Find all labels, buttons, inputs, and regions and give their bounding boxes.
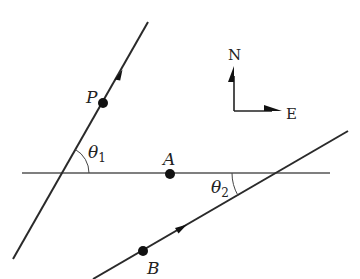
theta1-symbol: θ — [88, 142, 98, 162]
compass-east-label: E — [286, 105, 297, 123]
path-line-B — [93, 131, 348, 279]
theta2-symbol: θ — [211, 177, 221, 197]
label-theta2: θ2 — [211, 177, 229, 200]
point-B — [138, 246, 148, 256]
label-B: B — [146, 258, 160, 278]
point-P — [98, 98, 108, 108]
diagram-canvas: P A B θ1 θ2 N E — [0, 0, 360, 279]
path-line-P — [13, 22, 148, 259]
label-A: A — [161, 149, 175, 169]
east-arrow-icon — [264, 105, 282, 111]
angle-arc-theta2 — [232, 173, 238, 196]
point-A — [165, 169, 175, 179]
north-arrow-icon — [228, 66, 234, 82]
angle-arc-theta1 — [75, 150, 89, 174]
theta2-subscript: 2 — [221, 186, 229, 200]
label-theta1: θ1 — [88, 142, 106, 165]
arrow-icon-path-B — [175, 225, 187, 234]
arrow-icon-path-P — [115, 70, 123, 81]
compass: N E — [228, 46, 297, 123]
theta1-subscript: 1 — [98, 151, 106, 165]
label-P: P — [85, 87, 98, 107]
compass-north-label: N — [228, 46, 241, 64]
